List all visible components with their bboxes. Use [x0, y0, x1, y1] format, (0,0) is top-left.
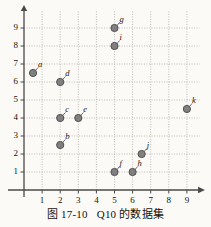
data-point-marker: [138, 150, 145, 157]
figure-scatter-plot: 123456789123456789 abcdefghijk 图 17-10Q1…: [0, 0, 211, 227]
caption-figure-number: 图 17-10: [47, 208, 88, 220]
data-point-label: e: [83, 105, 87, 114]
x-axis-tick-label: 5: [108, 196, 122, 205]
y-axis-tick-label: 4: [6, 113, 18, 122]
data-point-markers: [29, 22, 192, 175]
figure-caption: 图 17-10Q10 的数据集: [0, 205, 211, 221]
data-point-label: k: [192, 96, 196, 105]
x-axis-tick-label: 9: [180, 196, 194, 205]
y-axis-arrowhead-icon: [21, 5, 27, 11]
data-point-marker: [183, 105, 190, 112]
x-axis-tick-label: 4: [89, 196, 103, 205]
data-point-marker: [111, 42, 118, 49]
data-point-label: g: [120, 15, 124, 24]
x-axis-arrowhead-icon: [198, 187, 205, 193]
data-point-label: c: [65, 105, 69, 114]
data-point-marker: [29, 69, 36, 76]
data-point-label: f: [120, 159, 122, 168]
y-axis-tick-label: 6: [6, 77, 18, 86]
x-axis-tick-label: 3: [71, 196, 85, 205]
y-axis-tick-label: 3: [6, 131, 18, 140]
data-point-label: i: [120, 33, 122, 42]
data-point-label: a: [38, 60, 42, 69]
plot-area: 123456789123456789 abcdefghijk: [0, 0, 211, 200]
plot-svg: [0, 0, 211, 200]
data-point-marker: [111, 24, 118, 31]
x-axis-tick-label: 6: [126, 196, 140, 205]
axes: [8, 5, 205, 197]
caption-title: Q10 的数据集: [97, 208, 164, 220]
x-axis-tick-label: 1: [35, 196, 49, 205]
data-point-marker: [129, 168, 136, 175]
data-point-label: b: [65, 132, 69, 141]
data-point-marker: [75, 114, 82, 121]
data-point-label: h: [138, 159, 142, 168]
data-point-label: d: [65, 69, 69, 78]
data-point-label: j: [147, 141, 149, 150]
data-point-marker: [57, 114, 64, 121]
x-axis-tick-label: 8: [162, 196, 176, 205]
data-point-marker: [111, 168, 118, 175]
data-point-marker: [57, 141, 64, 148]
x-axis-tick-label: 2: [53, 196, 67, 205]
axis-tickmarks: [21, 28, 187, 194]
data-point-marker: [57, 78, 64, 85]
y-axis-tick-label: 2: [6, 149, 18, 158]
y-axis-tick-label: 9: [6, 23, 18, 32]
gridlines: [24, 11, 200, 190]
y-axis-tick-label: 8: [6, 41, 18, 50]
x-axis-tick-label: 7: [144, 196, 158, 205]
y-axis-tick-label: 1: [6, 167, 18, 176]
y-axis-tick-label: 7: [6, 59, 18, 68]
y-axis-tick-label: 5: [6, 95, 18, 104]
